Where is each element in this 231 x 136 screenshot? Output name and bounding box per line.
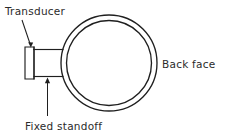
label-transducer: Transducer — [4, 5, 66, 17]
label-fixed-standoff: Fixed standoff — [25, 120, 102, 132]
diagram-canvas: Transducer Fixed standoff Back face — [0, 0, 231, 136]
transducer-block-outline — [25, 47, 34, 79]
label-back-face: Back face — [162, 58, 215, 70]
pipe-inner-wall-circle — [67, 21, 152, 106]
transducer-standoff-diagram: Transducer Fixed standoff Back face — [0, 0, 231, 136]
transducer-leader-line — [22, 20, 30, 44]
pipe-outer-wall-circle — [61, 15, 157, 111]
standoff-leader-arrowhead — [45, 78, 50, 84]
